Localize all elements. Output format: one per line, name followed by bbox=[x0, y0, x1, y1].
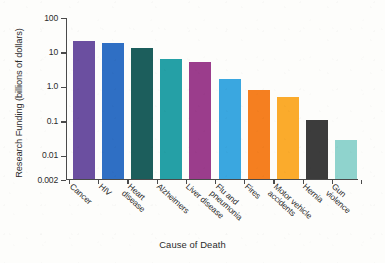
bar bbox=[160, 59, 182, 179]
bar bbox=[248, 90, 270, 180]
y-axis-title: Research Funding (billions of dollars) bbox=[14, 13, 24, 193]
y-tick-label: 100 bbox=[44, 13, 58, 23]
bar bbox=[306, 120, 328, 179]
bar bbox=[131, 48, 153, 179]
bar bbox=[73, 41, 95, 179]
bar bbox=[277, 97, 299, 179]
x-tick bbox=[361, 180, 362, 184]
x-axis-label: Gun violence bbox=[325, 182, 358, 215]
research-funding-bar-chart: Research Funding (billions of dollars) 1… bbox=[0, 0, 385, 263]
x-axis-labels: CancerHIVHeart diseaseAlzheimersLiver di… bbox=[66, 182, 358, 240]
y-axis-line bbox=[66, 18, 67, 180]
x-axis-label: Cancer bbox=[68, 182, 93, 206]
y-tick: 0.002 bbox=[61, 180, 66, 181]
y-tick: 10 bbox=[61, 52, 66, 53]
bar bbox=[335, 140, 357, 179]
footer-caption bbox=[0, 255, 385, 263]
y-tick: 0.1 bbox=[61, 121, 66, 122]
plot-area: 100101.00.10.010.002 bbox=[66, 18, 358, 180]
x-axis-label: Hernia bbox=[301, 182, 324, 204]
bar bbox=[102, 43, 124, 179]
x-axis-label: HIV bbox=[97, 182, 113, 197]
x-axis-title: Cause of Death bbox=[0, 239, 385, 250]
bar bbox=[219, 79, 241, 179]
y-tick-label: 1.0 bbox=[47, 81, 58, 91]
y-tick-label: 10 bbox=[49, 47, 58, 57]
bar bbox=[189, 62, 211, 179]
y-tick-label: 0.1 bbox=[47, 116, 58, 126]
y-tick: 100 bbox=[61, 18, 66, 19]
y-tick: 1.0 bbox=[61, 87, 66, 88]
x-axis-label: Heart disease bbox=[121, 182, 153, 213]
y-tick: 0.01 bbox=[61, 156, 66, 157]
x-axis-label: Fires bbox=[243, 182, 262, 200]
y-tick-label: 0.01 bbox=[42, 150, 58, 160]
y-tick-label: 0.002 bbox=[37, 175, 58, 185]
